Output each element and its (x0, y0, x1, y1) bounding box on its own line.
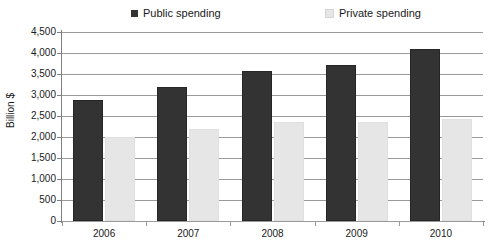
y-tick-mark (57, 137, 62, 138)
x-tick-mark (230, 222, 231, 226)
y-tick-label: 1,000 (2, 174, 56, 184)
x-tick-label: 2008 (238, 228, 308, 239)
x-tick-mark (399, 222, 400, 226)
x-tick-label: 2006 (69, 228, 139, 239)
y-tick-label: 500 (2, 195, 56, 205)
legend-swatch-public-icon (131, 10, 138, 17)
legend-label-private: Private spending (339, 7, 421, 19)
chart-legend: Public spending Private spending (0, 4, 494, 22)
legend-item-private-spending: Private spending (325, 4, 421, 22)
y-tick-label: 2,000 (2, 132, 56, 142)
bar-public-spending-2006 (73, 100, 103, 221)
plot-area (62, 32, 483, 221)
bar-private-spending-2007 (189, 129, 219, 221)
bar-public-spending-2008 (242, 71, 272, 221)
y-tick-label: 3,000 (2, 90, 56, 100)
y-tick-mark (57, 179, 62, 180)
x-tick-label: 2010 (406, 228, 476, 239)
bar-chart: Public spending Private spending Billion… (0, 0, 494, 241)
bar-private-spending-2010 (442, 119, 472, 221)
y-axis-tick-labels: 4,5004,0003,5003,0002,5002,0001,5001,000… (0, 0, 56, 241)
x-tick-mark (483, 222, 484, 226)
y-tick-mark (57, 95, 62, 96)
bar-private-spending-2008 (274, 122, 304, 221)
gridline (62, 32, 483, 33)
y-tick-label: 4,000 (2, 48, 56, 58)
y-tick-mark (57, 200, 62, 201)
x-tick-label: 2009 (322, 228, 392, 239)
bar-private-spending-2009 (358, 122, 388, 221)
legend-label-public: Public spending (143, 7, 221, 19)
bar-public-spending-2007 (157, 87, 187, 221)
bar-public-spending-2009 (326, 65, 356, 221)
x-tick-mark (62, 222, 63, 226)
x-tick-label: 2007 (153, 228, 223, 239)
y-tick-label: 4,500 (2, 27, 56, 37)
legend-swatch-private-icon (325, 9, 334, 18)
y-tick-label: 2,500 (2, 111, 56, 121)
y-tick-label: 1,500 (2, 153, 56, 163)
y-tick-mark (57, 74, 62, 75)
x-tick-mark (315, 222, 316, 226)
y-tick-mark (57, 32, 62, 33)
y-tick-mark (57, 116, 62, 117)
x-tick-mark (146, 222, 147, 226)
y-tick-mark (57, 53, 62, 54)
bar-public-spending-2010 (410, 49, 440, 221)
y-tick-mark (57, 158, 62, 159)
y-tick-label: 3,500 (2, 69, 56, 79)
bar-private-spending-2006 (105, 137, 135, 221)
gridline (62, 221, 483, 222)
legend-item-public-spending: Public spending (131, 4, 221, 22)
y-tick-label: 0 (2, 216, 56, 226)
